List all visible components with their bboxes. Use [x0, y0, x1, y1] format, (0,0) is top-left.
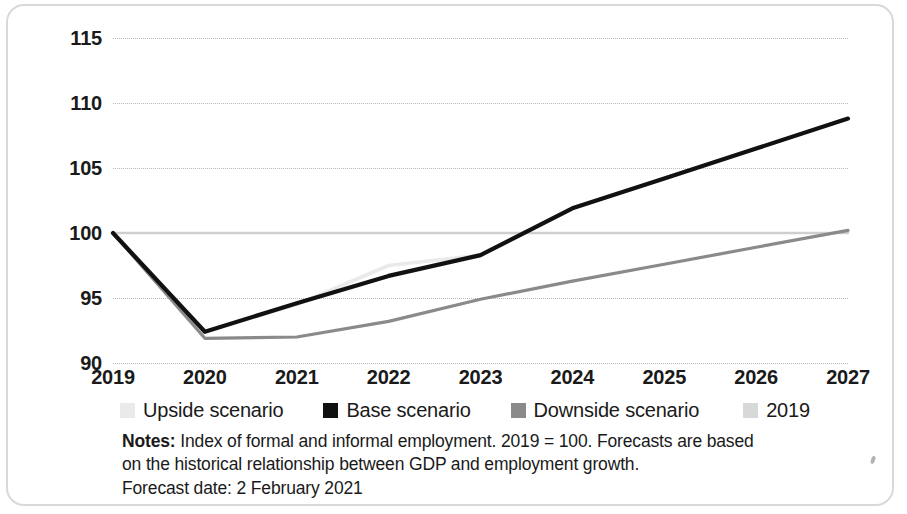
- legend-item-2019[interactable]: 2019: [743, 399, 810, 422]
- x-axis-label-2027: 2027: [826, 366, 870, 389]
- legend-item-downside-scenario[interactable]: Downside scenario: [511, 399, 700, 422]
- chart-legend: Upside scenarioBase scenarioDownside sce…: [120, 397, 840, 423]
- y-axis-label-100: 100: [42, 223, 102, 243]
- x-axis-label-2024: 2024: [551, 366, 595, 389]
- legend-swatch-icon: [743, 403, 758, 418]
- x-axis-label-2025: 2025: [642, 366, 686, 389]
- series-line-downside-scenario: [113, 230, 848, 338]
- notes-line-3: Forecast date: 2 February 2021: [122, 477, 852, 500]
- legend-item-base-scenario[interactable]: Base scenario: [323, 399, 470, 422]
- x-axis-ticks: 201920202021202220232024202520262027: [113, 366, 848, 394]
- legend-item-upside-scenario[interactable]: Upside scenario: [120, 399, 283, 422]
- x-axis-label-2020: 2020: [183, 366, 227, 389]
- notes-line-1: Notes: Index of formal and informal empl…: [122, 430, 852, 453]
- notes-line-2: on the historical relationship between G…: [122, 453, 852, 476]
- chart-notes: Notes: Index of formal and informal empl…: [122, 430, 852, 500]
- legend-label: Upside scenario: [143, 399, 283, 422]
- legend-label: Downside scenario: [534, 399, 700, 422]
- x-axis-label-2023: 2023: [459, 366, 503, 389]
- page-speck-artifact: [870, 456, 876, 465]
- chart-figure-frame: 9095100105110115 20192020202120222023202…: [6, 4, 894, 506]
- notes-text-1: Index of formal and informal employment.…: [176, 431, 754, 451]
- x-axis-label-2022: 2022: [367, 366, 411, 389]
- legend-label: 2019: [766, 399, 810, 422]
- legend-swatch-icon: [323, 403, 338, 418]
- legend-label: Base scenario: [346, 399, 470, 422]
- y-axis-label-115: 115: [42, 28, 102, 48]
- notes-lead: Notes:: [122, 431, 176, 451]
- gridline-90: [113, 363, 848, 364]
- x-axis-label-2021: 2021: [275, 366, 319, 389]
- y-axis-label-95: 95: [42, 288, 102, 308]
- y-axis-label-110: 110: [42, 93, 102, 113]
- y-axis-label-105: 105: [42, 158, 102, 178]
- legend-swatch-icon: [120, 403, 135, 418]
- chart-series-lines: [113, 38, 848, 363]
- legend-swatch-icon: [511, 403, 526, 418]
- x-axis-label-2019: 2019: [91, 366, 135, 389]
- x-axis-label-2026: 2026: [734, 366, 778, 389]
- chart-plot-area: 9095100105110115: [113, 38, 848, 363]
